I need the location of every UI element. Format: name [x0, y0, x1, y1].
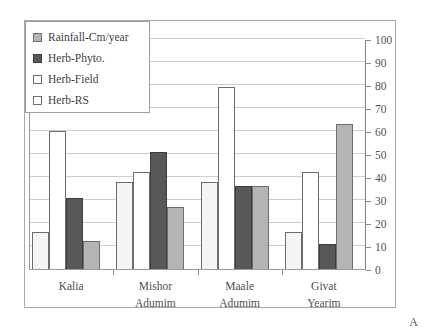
x-axis-label-line2: Adumim — [113, 295, 197, 312]
bar-1-3 — [66, 198, 83, 269]
x-tick-2 — [198, 270, 199, 275]
bar-2-2 — [133, 172, 150, 269]
bar-1-1 — [32, 232, 49, 269]
legend-item-2: Herb-Phyto. — [33, 48, 149, 69]
x-axis-label-line2: Adumim — [198, 295, 282, 312]
chart-legend: Rainfall-Cm/yearHerb-Phyto.Herb-FieldHer… — [25, 21, 150, 113]
x-axis-labels: KaliaMishorAdumimMaaleAdumimGivatYearim — [29, 278, 366, 326]
y-tick-label-0: 0 — [375, 262, 381, 278]
x-axis-label-line1: Kalia — [59, 280, 84, 292]
bar-1-4 — [83, 241, 100, 269]
y-tick-mark-10 — [366, 247, 371, 248]
x-axis-label-line1: Mishor — [139, 280, 172, 292]
y-tick-mark-90 — [366, 63, 371, 64]
legend-label-2: Herb-Phyto. — [48, 52, 105, 65]
legend-swatch-herb-field — [33, 75, 42, 84]
x-tick-3 — [282, 270, 283, 275]
bar-4-1 — [285, 232, 302, 269]
y-tick-mark-70 — [366, 109, 371, 110]
y-tick-mark-20 — [366, 224, 371, 225]
bar-3-3 — [235, 186, 252, 269]
x-axis-label-1: Kalia — [29, 278, 113, 295]
y-axis: 1009080706050403020100 — [366, 40, 424, 272]
bar-2-1 — [116, 182, 133, 269]
x-axis-label-line1: Givat — [311, 280, 337, 292]
y-tick-label-80: 80 — [375, 78, 387, 94]
y-tick-mark-0 — [366, 270, 371, 271]
y-tick-label-60: 60 — [375, 124, 387, 140]
bar-3-1 — [201, 182, 218, 269]
y-tick-label-90: 90 — [375, 55, 387, 71]
x-axis-label-3: MaaleAdumim — [198, 278, 282, 312]
y-tick-mark-60 — [366, 132, 371, 133]
bar-2-3 — [150, 152, 167, 269]
x-axis-label-4: GivatYearim — [282, 278, 366, 312]
legend-label-3: Herb-Field — [48, 73, 98, 86]
y-tick-mark-50 — [366, 155, 371, 156]
bar-4-2 — [302, 172, 319, 269]
y-tick-label-50: 50 — [375, 147, 387, 163]
legend-swatch-herb-phyto — [33, 54, 42, 63]
legend-item-4: Herb-RS — [33, 90, 149, 111]
y-tick-label-30: 30 — [375, 193, 387, 209]
bar-1-2 — [49, 131, 66, 269]
legend-label-1: Rainfall-Cm/year — [48, 31, 128, 44]
x-axis-label-2: MishorAdumim — [113, 278, 197, 312]
x-axis-label-line1: Maale — [225, 280, 254, 292]
bar-4-3 — [319, 244, 336, 269]
legend-item-1: Rainfall-Cm/year — [33, 27, 149, 48]
legend-swatch-herb-rs — [33, 96, 42, 105]
legend-swatch-rainfall — [33, 33, 42, 42]
legend-label-4: Herb-RS — [48, 94, 89, 107]
bar-group-4 — [285, 40, 353, 269]
y-tick-label-40: 40 — [375, 170, 387, 186]
y-tick-label-100: 100 — [375, 32, 392, 48]
panel-letter: A — [409, 315, 418, 330]
y-tick-mark-40 — [366, 178, 371, 179]
legend-item-3: Herb-Field — [33, 69, 149, 90]
bar-group-3 — [201, 40, 269, 269]
y-tick-label-70: 70 — [375, 101, 387, 117]
x-axis-ticks — [29, 270, 366, 276]
y-tick-mark-30 — [366, 201, 371, 202]
x-tick-1 — [113, 270, 114, 275]
x-axis-label-line2: Yearim — [282, 295, 366, 312]
bar-3-4 — [252, 186, 269, 269]
bar-4-4 — [336, 124, 353, 269]
y-tick-label-10: 10 — [375, 239, 387, 255]
y-tick-mark-100 — [366, 40, 371, 41]
bar-3-2 — [218, 87, 235, 269]
y-tick-mark-80 — [366, 86, 371, 87]
bar-2-4 — [167, 207, 184, 269]
y-tick-label-20: 20 — [375, 216, 387, 232]
